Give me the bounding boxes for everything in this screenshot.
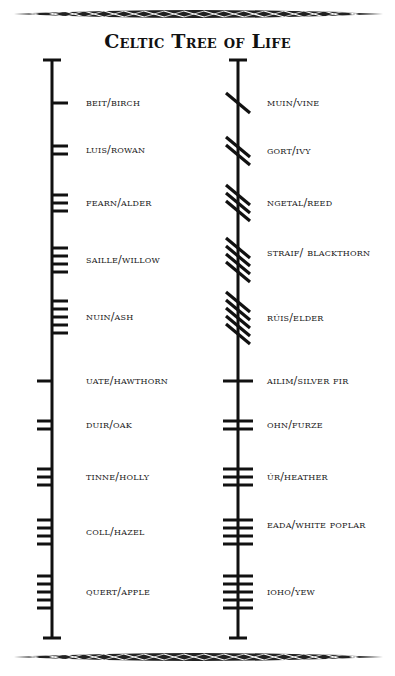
celtic-knot-border-bottom [14, 652, 383, 662]
tree-label-fearn: fearn/alder [86, 196, 151, 210]
tree-label-eadha: eada/white poplar [267, 518, 377, 532]
tree-label-uath: uate/hawthorn [86, 374, 168, 388]
tree-label-gort: gort/ivy [267, 144, 311, 158]
tree-label-muin: muin/vine [267, 96, 319, 110]
tree-label-nuin: nuin/ash [86, 310, 133, 324]
tree-label-onn: ohn/furze [267, 418, 323, 432]
tree-label-luis: luis/rowan [86, 143, 145, 157]
tree-label-straif: straif/ blackthorn [267, 246, 377, 260]
tree-label-ruis: rúis/elder [267, 311, 324, 325]
tree-label-ioho: ioho/yew [267, 585, 315, 599]
tree-label-tinne: tinne/holly [86, 470, 149, 484]
tree-label-duir: duir/oak [86, 418, 132, 432]
knotwork-icon [14, 652, 383, 662]
tree-label-ur: úr/heather [267, 470, 328, 484]
tree-label-saille: saille/willow [86, 253, 160, 267]
ogham-diagram [0, 0, 395, 676]
tree-label-quert: quert/apple [86, 585, 150, 599]
tree-label-ngetal: ngetal/reed [267, 196, 332, 210]
tree-label-ailm: ailim/silver fir [267, 374, 348, 388]
tree-label-coll: coll/hazel [86, 525, 144, 539]
tree-label-beith: beit/birch [86, 96, 140, 110]
